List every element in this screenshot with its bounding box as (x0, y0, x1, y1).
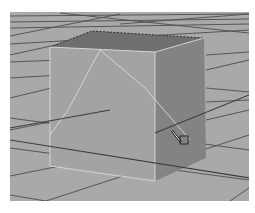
viewport-label: 3D perspective viewport (0, 0, 11, 1)
screenshot-frame: 3D perspective viewport (0, 0, 255, 213)
cube-right-face[interactable] (155, 38, 206, 181)
3d-viewport[interactable] (10, 12, 249, 201)
scene-canvas[interactable] (10, 12, 249, 201)
